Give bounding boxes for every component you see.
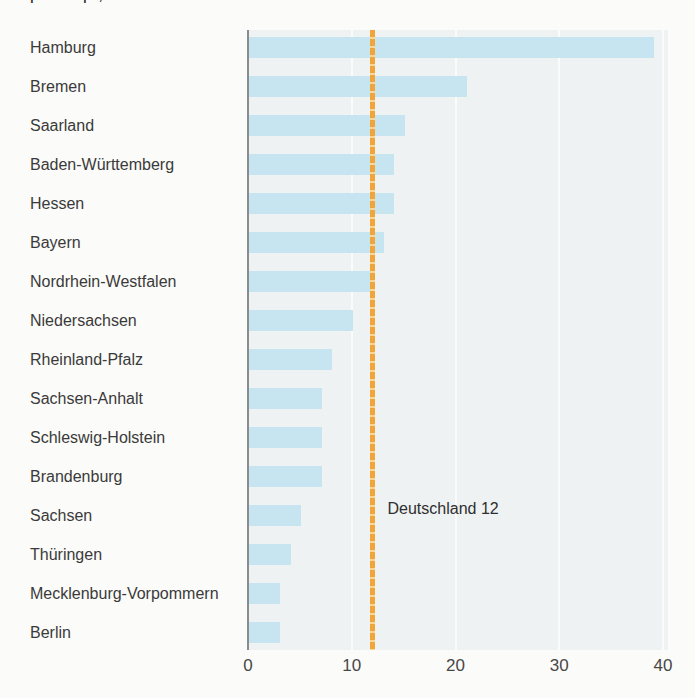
category-label-nordrhein-westfalen: Nordrhein-Westfalen <box>30 262 176 301</box>
bar-chart: pro Kopf, in Prozent HamburgBremenSaarla… <box>0 0 695 698</box>
y-axis-line <box>247 30 249 650</box>
cropped-header-text: pro Kopf, in Prozent <box>30 0 430 6</box>
category-label-hessen: Hessen <box>30 184 84 223</box>
bar-hamburg <box>249 37 654 58</box>
bar-saarland <box>249 115 405 136</box>
bar-th-ringen <box>249 544 291 565</box>
x-tick-40: 40 <box>654 656 673 676</box>
category-label-brandenburg: Brandenburg <box>30 457 123 496</box>
x-tick-0: 0 <box>243 656 252 676</box>
bar-sachsen <box>249 505 301 526</box>
category-label-bremen: Bremen <box>30 67 86 106</box>
x-tick-20: 20 <box>446 656 465 676</box>
x-tick-30: 30 <box>550 656 569 676</box>
bar-mecklenburg-vorpommern <box>249 583 280 604</box>
reference-line-deutschland <box>370 30 375 650</box>
category-label-hamburg: Hamburg <box>30 28 96 67</box>
plot-area: Deutschland 12 <box>248 30 668 650</box>
gridline-30 <box>558 30 560 650</box>
gridline-40 <box>662 30 664 650</box>
bar-niedersachsen <box>249 310 353 331</box>
bar-schleswig-holstein <box>249 427 322 448</box>
category-label-th-ringen: Thüringen <box>30 535 102 574</box>
category-label-rheinland-pfalz: Rheinland-Pfalz <box>30 340 143 379</box>
category-label-schleswig-holstein: Schleswig-Holstein <box>30 418 165 457</box>
bar-rheinland-pfalz <box>249 349 332 370</box>
x-tick-10: 10 <box>342 656 361 676</box>
category-label-saarland: Saarland <box>30 106 94 145</box>
category-label-berlin: Berlin <box>30 613 71 652</box>
category-label-bayern: Bayern <box>30 223 81 262</box>
bar-bremen <box>249 76 467 97</box>
bar-berlin <box>249 622 280 643</box>
category-label-mecklenburg-vorpommern: Mecklenburg-Vorpommern <box>30 574 219 613</box>
category-label-baden-w-rttemberg: Baden-Württemberg <box>30 145 174 184</box>
bar-nordrhein-westfalen <box>249 271 374 292</box>
bar-sachsen-anhalt <box>249 388 322 409</box>
category-label-sachsen: Sachsen <box>30 496 92 535</box>
category-label-sachsen-anhalt: Sachsen-Anhalt <box>30 379 143 418</box>
bar-brandenburg <box>249 466 322 487</box>
bar-bayern <box>249 232 384 253</box>
gridline-20 <box>455 30 457 650</box>
reference-line-label: Deutschland 12 <box>388 500 499 518</box>
category-label-niedersachsen: Niedersachsen <box>30 301 137 340</box>
cropped-header-text-content: pro Kopf, in Prozent <box>30 0 430 5</box>
